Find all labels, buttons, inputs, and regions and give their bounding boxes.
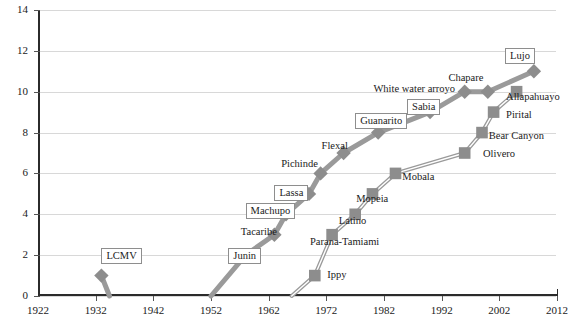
point-label: Mobala [401,171,435,182]
point-label: Allapahuayo [505,91,561,102]
point-label: Ippy [326,269,347,280]
data-point-square[interactable] [488,106,500,118]
point-label: Pichinde [280,158,319,169]
point-label: Flexal [321,140,349,151]
point-label: White water arroyo [372,83,456,94]
data-point-square[interactable] [309,270,321,282]
point-label: Tacaribe [240,226,278,237]
point-label: Lassa [274,185,308,201]
point-label: Olivero [482,148,516,159]
point-label: Sabia [407,99,440,115]
point-label: Lujo [505,48,535,64]
point-label: LCMV [101,248,141,264]
data-point-diamond[interactable] [527,64,541,78]
point-label: Machupo [246,203,296,219]
data-point-square[interactable] [459,147,471,159]
data-point-square[interactable] [390,168,402,180]
data-point-diamond[interactable] [94,268,108,282]
data-point-square[interactable] [476,127,488,139]
point-label: Bear Canyon [488,130,545,141]
point-label: Latino [338,215,367,226]
point-label: Guanarito [355,113,407,129]
point-label: Pirital [505,109,533,120]
data-point-diamond[interactable] [481,85,495,99]
point-label: Mopeia [355,193,389,204]
point-label: Chapare [447,72,484,83]
point-label: Junin [228,248,261,264]
arenavirus-discovery-chart: 02468101214 1922193219421952196219721982… [0,0,582,330]
point-label: Parana-Tamiami [309,236,380,247]
